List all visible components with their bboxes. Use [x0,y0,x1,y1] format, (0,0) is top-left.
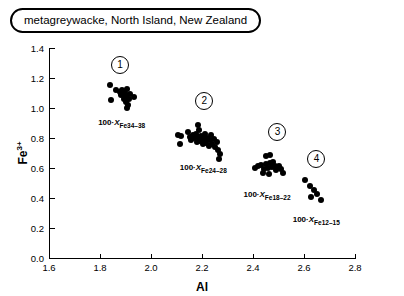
y-tick [50,138,55,139]
y-tick-label: 1.4 [19,43,44,54]
x-axis-title: Al [196,280,208,294]
x-tick-label: 2.8 [348,262,361,273]
y-tick-label: 1.2 [19,73,44,84]
y-axis-title: Fe3+ [15,141,30,164]
cluster-label-2: 100·XFe24–28 [180,163,227,174]
x-tick [151,254,152,259]
cluster-label-prefix: 100· [180,163,196,172]
x-tick-label: 2.2 [195,262,208,273]
data-point [124,105,130,111]
cluster-number-1: 1 [111,56,129,74]
data-point [266,171,272,177]
x-tick-label: 1.8 [93,262,106,273]
y-tick [50,48,55,49]
chart-title: metagreywacke, North Island, New Zealand [10,8,261,33]
data-point [267,152,273,158]
x-tick-label: 2.0 [144,262,157,273]
data-point [214,139,220,145]
data-point [108,97,114,103]
data-point [318,197,324,203]
cluster-label-prefix: 100· [98,118,114,127]
cluster-label-prefix: 100· [293,215,309,224]
cluster-label-range: 12–15 [322,219,340,226]
data-point [216,156,222,162]
x-tick-label: 2.6 [297,262,310,273]
plot-area: 1.61.82.02.22.42.62.8 0.00.20.40.60.81.0… [49,48,355,258]
cluster-number-3: 3 [268,123,286,141]
data-point [308,194,314,200]
figure: metagreywacke, North Island, New Zealand… [0,0,404,296]
x-tick [202,254,203,259]
y-tick-label: 0.0 [19,253,44,264]
y-tick [50,78,55,79]
data-point [260,170,266,176]
cluster-label-3: 100·XFe18–22 [244,190,291,201]
y-tick [50,108,55,109]
y-axis-title-superscript: 3+ [15,141,24,150]
y-tick-label: 0.4 [19,193,44,204]
y-tick-label: 1.0 [19,103,44,114]
data-point [178,133,184,139]
x-tick [304,254,305,259]
data-point [314,191,320,197]
x-tick [355,254,356,259]
data-point [302,177,308,183]
data-point [107,82,113,88]
x-tick-label: 1.6 [42,262,55,273]
y-tick [50,198,55,199]
y-tick-label: 0.2 [19,223,44,234]
cluster-label-4: 100·XFe12–15 [293,215,340,226]
x-tick [253,254,254,259]
data-point [280,170,286,176]
y-axis-title-base: Fe [16,151,30,165]
cluster-label-prefix: 100· [244,190,260,199]
x-tick-label: 2.4 [246,262,259,273]
data-point [131,94,137,100]
cluster-label-range: 18–22 [272,193,290,200]
y-tick [50,168,55,169]
cluster-label-1: 100·XFe34–38 [98,118,145,129]
cluster-number-2: 2 [195,92,213,110]
y-tick [50,228,55,229]
y-tick [50,258,55,259]
x-tick [100,254,101,259]
cluster-label-subscript-fe: Fe [120,121,128,128]
cluster-label-subscript-fe: Fe [201,166,209,173]
cluster-label-range: 24–28 [209,166,227,173]
cluster-label-subscript-fe: Fe [314,219,322,226]
cluster-label-subscript-fe: Fe [265,193,273,200]
cluster-number-4: 4 [307,150,325,168]
data-point [177,141,183,147]
cluster-label-range: 34–38 [127,121,145,128]
